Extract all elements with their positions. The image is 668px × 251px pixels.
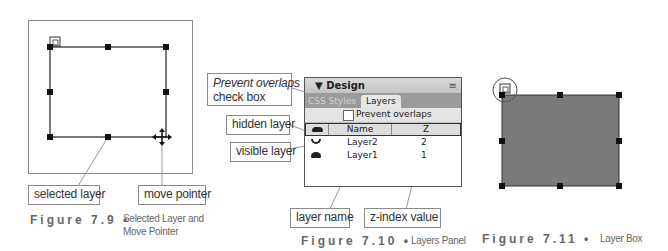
- callout-line-2: check box: [213, 90, 286, 104]
- options-row: Prevent overlaps: [305, 108, 461, 123]
- figure-number: Figure 7.11: [482, 232, 578, 246]
- prevent-overlaps-checkbox[interactable]: [343, 110, 354, 121]
- open-eye-icon[interactable]: [311, 152, 321, 158]
- resize-handle-ml[interactable]: [47, 89, 53, 95]
- table-row[interactable]: Layer2 2: [305, 136, 461, 149]
- callout-prevent-overlaps: Prevent overlaps check box: [207, 73, 292, 106]
- callout-hidden-layer: hidden layer: [226, 115, 290, 135]
- figure-caption: Layers Panel: [411, 234, 466, 247]
- layers-panel: ▼ Design ≡ CSS Styles Layers Prevent ove…: [304, 77, 462, 187]
- layer-name: Layer1: [347, 150, 378, 160]
- figure-label: Figure 7.10 •: [301, 234, 408, 248]
- callout-line-1: Prevent overlaps: [213, 76, 286, 90]
- eye-column-header[interactable]: [306, 124, 329, 135]
- panel-tabs: CSS Styles Layers: [305, 94, 461, 108]
- figure-label: Figure 7.9 •: [30, 213, 127, 227]
- callout-z-index-value: z-index value: [364, 208, 441, 228]
- panel-header[interactable]: ▼ Design ≡: [305, 78, 461, 94]
- z-column-header[interactable]: Z: [392, 124, 460, 135]
- resize-handle-mr[interactable]: [163, 89, 169, 95]
- resize-handle-tl[interactable]: [47, 44, 53, 50]
- resize-handle-bl[interactable]: [47, 134, 53, 140]
- resize-handle-br[interactable]: [616, 183, 622, 189]
- resize-handle-bm[interactable]: [557, 183, 563, 189]
- eye-icon: [312, 127, 323, 132]
- bullet: •: [584, 232, 588, 246]
- layers-table-header: Name Z: [305, 123, 461, 136]
- tab-layers[interactable]: Layers: [361, 95, 401, 108]
- bullet: •: [404, 234, 408, 248]
- panel-title: ▼ Design: [315, 80, 365, 91]
- resize-handle-tm[interactable]: [105, 44, 111, 50]
- resize-handle-mr[interactable]: [616, 138, 622, 144]
- resize-handle-tr[interactable]: [163, 44, 169, 50]
- callout-selected-layer: selected layer: [28, 185, 100, 205]
- figure-number: Figure 7.9: [30, 213, 117, 227]
- caption-line-2: Move Pointer: [123, 225, 204, 238]
- panel-menu-icon[interactable]: ≡: [449, 78, 457, 93]
- table-row[interactable]: Layer1 1: [305, 149, 461, 162]
- tab-css-styles[interactable]: CSS Styles: [308, 95, 356, 108]
- prevent-overlaps-label: Prevent overlaps: [356, 109, 432, 119]
- caption-line-1: Selected Layer and: [123, 212, 204, 225]
- figure-label: Figure 7.11 •: [482, 232, 588, 246]
- layer-z-index: 1: [421, 150, 427, 160]
- figure-number: Figure 7.10: [301, 234, 397, 248]
- figure-caption: Selected Layer and Move Pointer: [123, 212, 204, 238]
- resize-handle-tm[interactable]: [557, 92, 563, 98]
- layer-z-index: 2: [421, 137, 427, 147]
- callout-layer-name: layer name: [290, 208, 350, 228]
- name-column-header[interactable]: Name: [329, 124, 392, 135]
- move-pointer-icon: [152, 128, 172, 146]
- closed-eye-icon[interactable]: [311, 139, 321, 144]
- resize-handle-ml[interactable]: [499, 138, 505, 144]
- resize-handle-tr[interactable]: [616, 92, 622, 98]
- figure-caption: Layer Box: [600, 232, 642, 245]
- callout-visible-layer: visible layer: [230, 142, 291, 162]
- resize-handle-bl[interactable]: [499, 183, 505, 189]
- callout-move-pointer: move pointer: [138, 185, 206, 205]
- resize-handle-tl[interactable]: [499, 92, 505, 98]
- layer-name: Layer2: [347, 137, 378, 147]
- resize-handle-bm[interactable]: [105, 134, 111, 140]
